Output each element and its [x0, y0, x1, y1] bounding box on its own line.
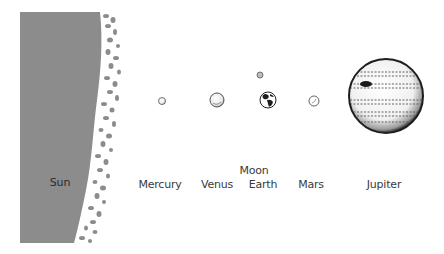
moon-icon — [257, 72, 263, 78]
mars-icon — [309, 96, 319, 106]
venus-icon — [210, 93, 224, 107]
label-mars: Mars — [298, 178, 324, 191]
label-moon: Moon — [239, 164, 268, 177]
solar-system-size-diagram — [0, 0, 444, 254]
mercury-icon — [159, 98, 166, 105]
label-venus: Venus — [201, 178, 233, 191]
earth-icon — [260, 92, 276, 108]
sun-limb-icon — [20, 12, 121, 243]
jupiter-icon — [349, 59, 423, 133]
label-mercury: Mercury — [138, 178, 181, 191]
label-earth: Earth — [249, 178, 278, 191]
label-sun: Sun — [50, 176, 70, 189]
label-jupiter: Jupiter — [367, 178, 401, 191]
